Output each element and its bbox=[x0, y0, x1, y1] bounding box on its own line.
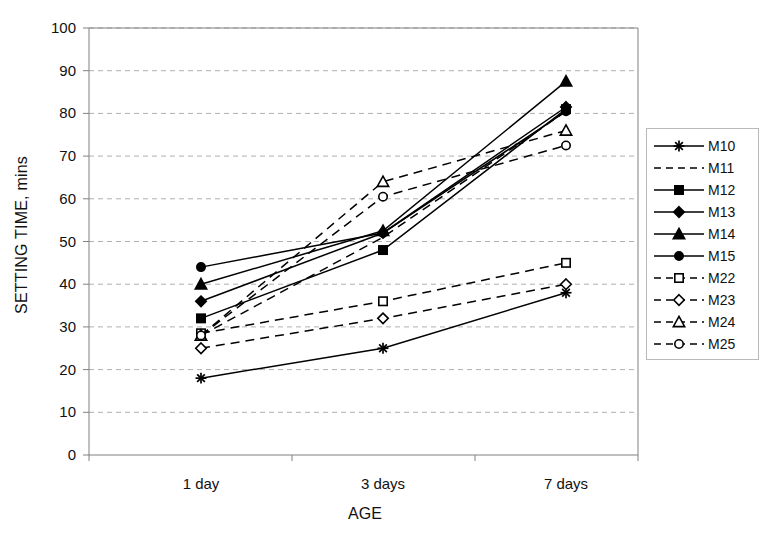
data-point-marker bbox=[562, 141, 570, 149]
legend-label: M13 bbox=[708, 204, 735, 220]
legend-marker bbox=[675, 186, 683, 194]
series-M13 bbox=[196, 102, 572, 307]
legend-symbol-M13 bbox=[652, 201, 706, 223]
data-point-marker bbox=[197, 314, 205, 322]
legend-symbol-M23 bbox=[652, 289, 706, 311]
legend-item-M12[interactable]: M12 bbox=[647, 179, 758, 201]
legend-item-M23[interactable]: M23 bbox=[647, 289, 758, 311]
legend-item-M11[interactable]: M11 bbox=[647, 157, 758, 179]
data-point-marker bbox=[560, 125, 571, 135]
data-point-marker bbox=[560, 76, 571, 86]
legend: M10M11M12M13M14M15M22M23M24M25 bbox=[646, 128, 759, 360]
data-point-marker bbox=[197, 331, 205, 339]
chart-figure: SETTING TIME, mins AGE 01020304050607080… bbox=[0, 0, 767, 554]
series-line bbox=[201, 107, 566, 301]
legend-marker bbox=[674, 295, 685, 306]
legend-label: M15 bbox=[708, 248, 735, 264]
data-point-marker bbox=[196, 343, 207, 354]
legend-item-M14[interactable]: M14 bbox=[647, 223, 758, 245]
data-point-marker bbox=[562, 259, 570, 267]
data-point-marker bbox=[196, 373, 207, 384]
data-point-marker bbox=[379, 192, 387, 200]
legend-label: M12 bbox=[708, 182, 735, 198]
legend-label: M24 bbox=[708, 314, 735, 330]
series-M23 bbox=[196, 279, 572, 354]
legend-symbol-M22 bbox=[652, 267, 706, 289]
data-point-marker bbox=[379, 229, 387, 237]
legend-marker bbox=[674, 141, 685, 152]
legend-item-M10[interactable]: M10 bbox=[647, 135, 758, 157]
legend-label: M22 bbox=[708, 270, 735, 286]
legend-item-M24[interactable]: M24 bbox=[647, 311, 758, 333]
legend-symbol-M11 bbox=[652, 157, 706, 179]
legend-marker bbox=[675, 274, 683, 282]
legend-label: M10 bbox=[708, 138, 735, 154]
legend-label: M11 bbox=[708, 160, 734, 176]
data-point-marker bbox=[379, 246, 387, 254]
legend-label: M23 bbox=[708, 292, 735, 308]
data-point-marker bbox=[197, 263, 205, 271]
legend-marker bbox=[675, 340, 683, 348]
data-point-marker bbox=[378, 343, 389, 354]
legend-item-M15[interactable]: M15 bbox=[647, 245, 758, 267]
data-point-marker bbox=[379, 297, 387, 305]
legend-item-M13[interactable]: M13 bbox=[647, 201, 758, 223]
data-point-marker bbox=[562, 107, 570, 115]
series-line bbox=[201, 109, 566, 318]
legend-symbol-M10 bbox=[652, 135, 706, 157]
series-M25 bbox=[197, 141, 570, 339]
legend-symbol-M24 bbox=[652, 311, 706, 333]
series-M22 bbox=[197, 259, 570, 338]
legend-marker bbox=[674, 207, 685, 218]
legend-item-M25[interactable]: M25 bbox=[647, 333, 758, 355]
series-line bbox=[201, 145, 566, 335]
data-point-marker bbox=[378, 313, 389, 324]
legend-symbol-M15 bbox=[652, 245, 706, 267]
series-line bbox=[201, 111, 566, 267]
legend-symbol-M12 bbox=[652, 179, 706, 201]
series-M12 bbox=[197, 105, 570, 323]
data-point-marker bbox=[196, 296, 207, 307]
legend-symbol-M25 bbox=[652, 333, 706, 355]
legend-marker bbox=[675, 252, 683, 260]
legend-item-M22[interactable]: M22 bbox=[647, 267, 758, 289]
legend-label: M14 bbox=[708, 226, 735, 242]
data-point-marker bbox=[561, 279, 572, 290]
legend-label: M25 bbox=[708, 336, 735, 352]
legend-symbol-M14 bbox=[652, 223, 706, 245]
